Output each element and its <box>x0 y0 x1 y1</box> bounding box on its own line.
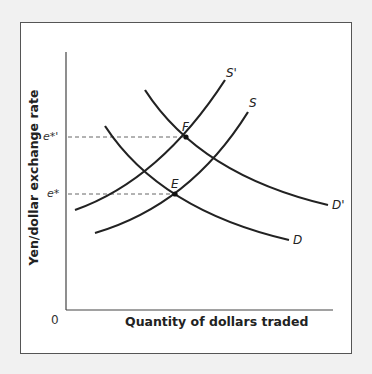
label-s-prime: S' <box>226 66 237 80</box>
label-d-prime: D' <box>332 198 345 212</box>
supply-curve-s <box>95 112 248 233</box>
label-s: S <box>249 96 257 110</box>
label-f: F <box>182 120 189 134</box>
tick-e-star-prime: e*' <box>43 130 58 143</box>
label-d: D <box>293 233 302 247</box>
label-e: E <box>171 177 179 191</box>
supply-curve-s-prime <box>75 80 225 210</box>
tick-e-star: e* <box>47 187 59 200</box>
origin-label: 0 <box>51 313 59 327</box>
x-axis-label: Quantity of dollars traded <box>125 314 308 329</box>
point-f <box>183 134 188 139</box>
point-e <box>172 191 177 196</box>
y-axis-label: Yen/dollar exchange rate <box>26 83 41 273</box>
